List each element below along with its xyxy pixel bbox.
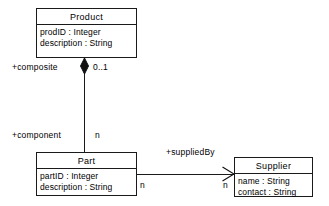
attribute-row: partID : Integer — [40, 171, 133, 182]
association-connector-line[interactable] — [137, 174, 234, 175]
class-name-part: Part — [37, 153, 136, 169]
uml-class-diagram-canvas: +composite 0..1 +component n +suppliedBy… — [0, 0, 329, 206]
class-attributes-product: prodID : Integer description : String — [37, 25, 136, 50]
attribute-row: contact : String — [238, 187, 309, 198]
association-label: +suppliedBy — [166, 147, 215, 158]
composition-source-multiplicity-label: 0..1 — [93, 62, 108, 73]
class-name-product: Product — [37, 9, 136, 25]
association-source-multiplicity-label: n — [140, 180, 145, 191]
association-target-multiplicity-label: n — [223, 180, 228, 191]
attribute-row: name : String — [238, 176, 309, 187]
class-attributes-part: partID : Integer description : String — [37, 169, 136, 194]
attribute-row: description : String — [40, 38, 133, 49]
filled-diamond-icon — [80, 58, 89, 74]
class-box-part[interactable]: Part partID : Integer description : Stri… — [36, 152, 137, 196]
composition-target-role-label: +component — [12, 130, 61, 141]
composition-target-multiplicity-label: n — [95, 130, 100, 141]
class-name-supplier: Supplier — [235, 158, 312, 174]
class-attributes-supplier: name : String contact : String — [235, 174, 312, 199]
attribute-row: description : String — [40, 182, 133, 193]
class-box-supplier[interactable]: Supplier name : String contact : String — [234, 157, 313, 197]
composition-source-role-label: +composite — [12, 62, 58, 73]
class-box-product[interactable]: Product prodID : Integer description : S… — [36, 8, 137, 58]
attribute-row: prodID : Integer — [40, 27, 133, 38]
